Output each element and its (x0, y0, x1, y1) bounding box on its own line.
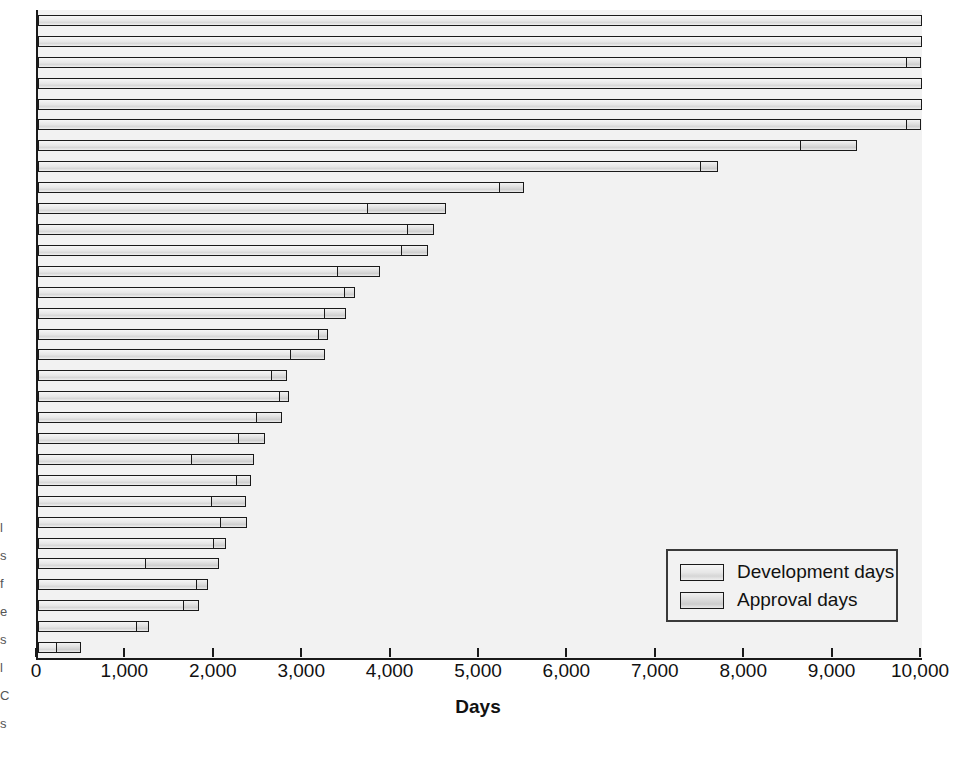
bar-row (38, 287, 355, 298)
bar-segment-development (38, 349, 292, 360)
bar-segment-development (38, 621, 137, 632)
x-tick-label: 8,000 (719, 660, 767, 682)
margin-text-fragment: s (0, 716, 12, 731)
bar-segment-approval (407, 224, 434, 235)
bar-segment-approval (337, 266, 380, 277)
x-tick-mark (919, 648, 921, 657)
bar-segment-approval (279, 391, 290, 402)
bar-segment-approval (906, 119, 921, 130)
bar-segment-development (38, 266, 339, 277)
bar-segment-approval (213, 538, 226, 549)
bar-row (38, 119, 921, 130)
bar-row (38, 99, 922, 110)
bar-segment-development (38, 203, 369, 214)
bar-segment-approval (56, 642, 81, 653)
bar-segment-approval (256, 412, 283, 423)
bar-segment-development (38, 517, 222, 528)
x-tick-label: 3,000 (277, 660, 325, 682)
bar-segment-development (38, 538, 214, 549)
x-tick-mark (212, 648, 214, 657)
x-tick-mark (300, 648, 302, 657)
bar-segment-development (38, 224, 408, 235)
bar-segment-approval (191, 454, 254, 465)
legend-swatch-approval-icon (680, 592, 724, 609)
bar-segment-development (38, 600, 185, 611)
legend-item-development: Development days (680, 558, 896, 586)
bar-segment-development (38, 370, 272, 381)
bar-segment-approval (183, 600, 199, 611)
x-axis-title: Days (36, 696, 920, 718)
bar-row (38, 349, 325, 360)
bar-segment-development (38, 287, 346, 298)
bar-row (38, 78, 922, 89)
bar-segment-approval (344, 287, 355, 298)
bar-segment-approval (499, 182, 524, 193)
bar-segment-development (38, 119, 907, 130)
bar-segment-approval (700, 161, 718, 172)
bar-segment-development (38, 642, 57, 653)
bar-segment-development (38, 558, 147, 569)
bar-segment-approval (238, 433, 265, 444)
legend-label-approval: Approval days (737, 589, 857, 611)
bar-row (38, 140, 857, 151)
bar-segment-development (38, 161, 702, 172)
margin-text-fragment: s (0, 632, 12, 647)
bar-segment-development (38, 182, 500, 193)
bar-row (38, 182, 524, 193)
bar-row (38, 412, 282, 423)
bar-row (38, 579, 208, 590)
bar-segment-development (38, 245, 402, 256)
x-tick-label: 9,000 (808, 660, 856, 682)
bar-row (38, 454, 254, 465)
bar-row (38, 433, 265, 444)
bar-segment-approval (236, 475, 252, 486)
bar-segment-development (38, 78, 922, 89)
bar-row (38, 621, 149, 632)
x-tick-mark (477, 648, 479, 657)
bar-segment-development (38, 36, 922, 47)
bar-segment-approval (290, 349, 324, 360)
margin-text-fragment: f (0, 576, 12, 591)
bar-segment-approval (220, 517, 247, 528)
bar-row (38, 57, 921, 68)
margin-text-fragment: C (0, 688, 12, 703)
bar-row (38, 203, 446, 214)
legend-swatch-development-icon (680, 564, 724, 581)
bar-segment-approval (401, 245, 428, 256)
bar-segment-approval (324, 308, 346, 319)
bar-row (38, 600, 199, 611)
chart-legend: Development days Approval days (666, 549, 898, 622)
x-tick-mark (565, 648, 567, 657)
bar-segment-approval (367, 203, 446, 214)
x-tick-mark (123, 648, 125, 657)
bar-segment-approval (196, 579, 208, 590)
bar-row (38, 224, 434, 235)
x-tick-label: 7,000 (631, 660, 679, 682)
bar-row (38, 329, 328, 340)
bar-segment-development (38, 140, 801, 151)
x-tick-label: 1,000 (101, 660, 149, 682)
bar-row (38, 245, 428, 256)
margin-text-fragment: e (0, 604, 12, 619)
chart-figure: 01,0002,0003,0004,0005,0006,0007,0008,00… (0, 0, 960, 777)
x-tick-label: 0 (31, 660, 42, 682)
bar-row (38, 496, 246, 507)
bar-row (38, 15, 922, 26)
bar-segment-approval (800, 140, 857, 151)
x-tick-mark (654, 648, 656, 657)
legend-item-approval: Approval days (680, 586, 896, 614)
bar-row (38, 475, 251, 486)
bar-row (38, 517, 247, 528)
bar-segment-development (38, 433, 240, 444)
bar-segment-development (38, 475, 237, 486)
margin-text-fragment: l (0, 660, 12, 675)
bar-segment-approval (211, 496, 246, 507)
bar-segment-development (38, 15, 922, 26)
x-tick-mark (831, 648, 833, 657)
x-tick-label: 4,000 (366, 660, 414, 682)
legend-label-development: Development days (737, 561, 894, 583)
bar-segment-development (38, 454, 193, 465)
bar-segment-approval (271, 370, 287, 381)
x-tick-label: 2,000 (189, 660, 237, 682)
bar-row (38, 538, 226, 549)
